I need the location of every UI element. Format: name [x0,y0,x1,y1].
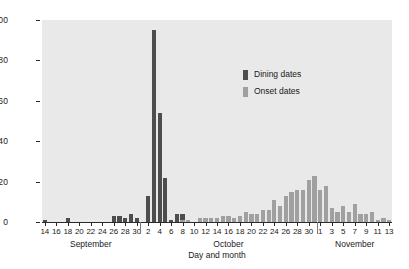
x-tick-label: 12 [201,227,210,236]
bar-onset-dates [249,214,253,222]
y-tick-mark [36,141,40,142]
month-label: October [213,239,243,249]
bar-onset-dates [335,212,339,222]
x-tick-mark [91,222,92,226]
bar-onset-dates [295,190,299,222]
bar-onset-dates [289,192,293,222]
x-tick-label: 20 [75,227,84,236]
bar-onset-dates [347,212,351,222]
bar-dining-dates [158,113,162,222]
x-tick-mark [160,222,161,226]
y-tick-label: 20 [0,177,8,187]
x-tick-label: 30 [304,227,313,236]
x-axis-title: Day and month [188,250,246,260]
y-tick-mark [36,20,40,21]
bar-dining-dates [152,30,156,222]
x-tick-mark [332,222,333,226]
x-tick-label: 26 [109,227,118,236]
x-tick-mark [297,222,298,226]
x-tick-label: 28 [293,227,302,236]
x-tick-mark [251,222,252,226]
legend-label: Onset dates [254,86,300,96]
x-tick-label: 24 [98,227,107,236]
bar-dining-dates [146,196,150,222]
x-tick-mark [274,222,275,226]
bar-onset-dates [324,186,328,222]
bar-onset-dates [284,196,288,222]
month-separator [140,222,141,234]
x-tick-label: 7 [353,227,357,236]
x-tick-label: 14 [41,227,50,236]
y-tick-mark [36,101,40,102]
y-tick-mark [36,182,40,183]
x-tick-label: 1 [318,227,322,236]
x-tick-mark [343,222,344,226]
month-separator [317,222,318,234]
x-tick-mark [137,222,138,226]
x-tick-label: 18 [63,227,72,236]
legend-swatch-icon [243,87,248,97]
x-tick-label: 8 [180,227,184,236]
x-tick-mark [148,222,149,226]
x-tick-label: 3 [330,227,334,236]
x-tick-label: 9 [364,227,368,236]
x-tick-label: 16 [52,227,61,236]
bar-onset-dates [330,208,334,222]
x-tick-label: 4 [157,227,161,236]
x-tick-mark [102,222,103,226]
bar-onset-dates [278,206,282,222]
bar-onset-dates [307,180,311,222]
y-tick-label: 100 [0,15,8,25]
bar-onset-dates [364,214,368,222]
x-tick-label: 10 [190,227,199,236]
x-tick-mark [68,222,69,226]
x-tick-mark [228,222,229,226]
x-tick-mark [194,222,195,226]
x-tick-label: 5 [341,227,345,236]
bar-onset-dates [272,200,276,222]
bar-onset-dates [261,210,265,222]
x-tick-mark [355,222,356,226]
bar-onset-dates [358,214,362,222]
x-tick-mark [183,222,184,226]
month-label: September [70,239,112,249]
x-tick-label: 18 [236,227,245,236]
x-tick-label: 6 [169,227,173,236]
x-tick-mark [217,222,218,226]
x-tick-mark [114,222,115,226]
x-tick-label: 16 [224,227,233,236]
y-tick-mark [36,222,40,223]
x-tick-mark [79,222,80,226]
x-tick-label: 22 [259,227,268,236]
x-tick-label: 11 [374,227,382,236]
x-tick-mark [286,222,287,226]
month-label: November [335,239,374,249]
bar-onset-dates [301,190,305,222]
y-tick-label: 80 [0,55,8,65]
bar-dining-dates [129,214,133,222]
x-tick-mark [171,222,172,226]
bar-onset-dates [318,190,322,222]
x-tick-mark [320,222,321,226]
y-tick-label: 40 [0,136,8,146]
x-tick-label: 26 [281,227,290,236]
bar-dining-dates [175,214,179,222]
x-tick-label: 13 [385,227,394,236]
x-tick-mark [389,222,390,226]
legend-label: Dining dates [254,69,301,79]
x-tick-mark [263,222,264,226]
bar-onset-dates [341,206,345,222]
x-tick-label: 24 [270,227,279,236]
y-tick-label: 0 [0,217,8,227]
x-tick-mark [45,222,46,226]
x-tick-label: 2 [146,227,150,236]
x-tick-mark [56,222,57,226]
x-tick-label: 28 [121,227,130,236]
x-tick-mark [378,222,379,226]
y-tick-label: 60 [0,96,8,106]
bars-container [42,20,392,222]
bar-onset-dates [312,176,316,222]
y-tick-mark [36,60,40,61]
x-tick-mark [309,222,310,226]
bar-onset-dates [353,204,357,222]
